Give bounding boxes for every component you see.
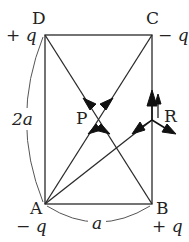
- field-arrows-p: [83, 98, 113, 134]
- vertex-a-charge: − q: [16, 216, 47, 236]
- vertex-b-label: B: [156, 198, 169, 218]
- height-label: 2a: [11, 109, 33, 129]
- vertex-a-label: A: [29, 198, 43, 218]
- point-r-label: R: [164, 106, 178, 126]
- arrow-r-down-left-icon: [132, 122, 145, 134]
- arrow-p-up-right-icon: [100, 98, 113, 110]
- point-p-label: P: [76, 108, 87, 128]
- vertex-b-charge: + q: [152, 216, 183, 236]
- width-label: a: [92, 213, 102, 233]
- vertex-d-charge: + q: [6, 25, 37, 45]
- vertex-c-charge: − q: [158, 25, 189, 45]
- arrow-r-resultant-icon: [155, 94, 161, 104]
- rectangle-charge-diagram: D + q C − q A − q B + q P R 2a a: [0, 0, 189, 242]
